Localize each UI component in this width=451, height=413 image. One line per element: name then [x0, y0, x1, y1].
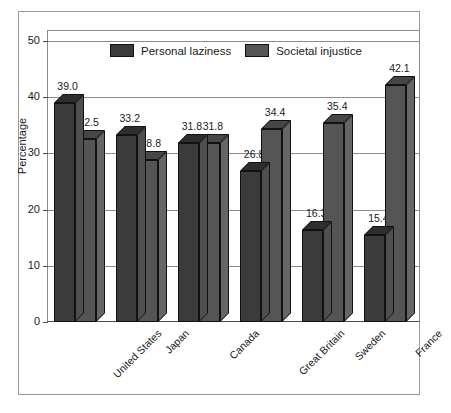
legend-swatch	[245, 44, 269, 57]
legend-entry-series2[interactable]: Societal injustice	[245, 44, 362, 57]
y-axis-tick-mark	[43, 41, 48, 42]
y-axis-tick-mark	[43, 153, 48, 154]
y-axis-tick-label: 50	[28, 34, 40, 46]
y-axis-tick-mark	[43, 266, 48, 267]
gridline	[48, 41, 419, 42]
bar-series1[interactable]	[364, 226, 394, 322]
y-axis-tick-mark	[43, 210, 48, 211]
plot-area	[47, 30, 420, 322]
y-axis-tick-label: 40	[28, 90, 40, 102]
bar-front-face	[54, 103, 75, 322]
legend-swatch	[110, 44, 134, 57]
bar-side-face	[344, 114, 353, 322]
bar-value-label: 31.8	[175, 120, 209, 132]
legend-label: Societal injustice	[276, 45, 362, 57]
gridline	[48, 97, 419, 98]
y-axis-tick-label: 20	[28, 203, 40, 215]
bar-side-face	[406, 76, 415, 322]
bar-series1[interactable]	[302, 221, 332, 322]
bar-front-face	[178, 143, 199, 322]
bar-front-face	[116, 135, 137, 322]
bar-side-face	[220, 134, 229, 322]
bar-side-face	[199, 134, 208, 322]
bar-value-label: 39.0	[51, 80, 85, 92]
y-axis-tick-mark	[43, 97, 48, 98]
y-axis-tick-label: 30	[28, 146, 40, 158]
bar-side-face	[75, 94, 84, 322]
bar-series1[interactable]	[240, 162, 270, 322]
bar-series1[interactable]	[178, 134, 208, 322]
y-axis-title: Percentage	[16, 106, 28, 186]
bar-side-face	[158, 151, 167, 322]
bar-front-face	[302, 230, 323, 322]
y-axis-tick-mark	[43, 322, 48, 323]
bar-value-label: 33.2	[113, 112, 147, 124]
bar-side-face	[385, 226, 394, 322]
bar-front-face	[240, 171, 261, 322]
bar-value-label: 42.1	[382, 62, 416, 74]
chart-figure: 01020304050 Percentage 32.539.028.833.23…	[0, 0, 451, 413]
bar-series1[interactable]	[116, 126, 146, 322]
y-axis-tick-label: 0	[34, 315, 40, 327]
legend-label: Personal laziness	[141, 45, 231, 57]
legend-entry-series1[interactable]: Personal laziness	[110, 44, 231, 57]
bar-front-face	[364, 235, 385, 322]
bar-value-label: 34.4	[258, 106, 292, 118]
bar-side-face	[96, 130, 105, 322]
y-axis-tick-label: 10	[28, 259, 40, 271]
bar-value-label: 35.4	[320, 100, 354, 112]
chart-legend: Personal lazinessSocietal injustice	[110, 44, 362, 57]
bar-side-face	[282, 120, 291, 322]
bar-series1[interactable]	[54, 94, 84, 322]
bar-side-face	[323, 221, 332, 322]
bar-side-face	[137, 126, 146, 322]
bar-side-face	[261, 162, 270, 322]
